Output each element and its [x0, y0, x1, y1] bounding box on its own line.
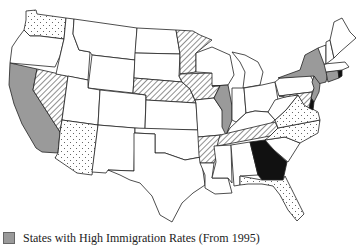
legend: States with High Immigration Rates (From… [3, 231, 260, 245]
state-arizona [55, 120, 98, 175]
state-michigan [232, 52, 263, 88]
legend-swatch-gray [3, 232, 15, 244]
state-rhode-island [338, 70, 342, 78]
state-colorado [98, 90, 146, 129]
state-massachusetts [324, 62, 349, 72]
state-maine [330, 18, 356, 58]
state-new-mexico [92, 125, 135, 173]
state-kansas [145, 100, 198, 130]
state-north-dakota [135, 28, 180, 54]
state-mississippi [212, 145, 232, 183]
state-florida [240, 176, 304, 221]
state-washington [24, 10, 66, 39]
us-map [0, 0, 356, 232]
legend-label: States with High Immigration Rates (From… [23, 231, 260, 245]
state-south-dakota [134, 53, 182, 82]
state-wyoming [88, 55, 135, 93]
states-layer [9, 10, 356, 222]
